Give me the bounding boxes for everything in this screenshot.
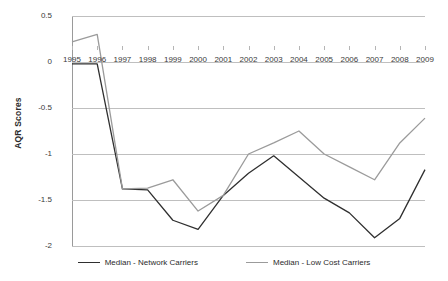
legend-label: Median - Network Carriers [105,258,198,267]
legend-swatch [78,262,100,263]
y-axis-tick-label: -2 [26,242,52,250]
series-line [72,64,425,238]
x-axis-tickmark [425,46,426,50]
x-axis-tickmark [324,46,325,50]
y-axis-tick-label: 0.5 [26,12,52,20]
x-axis-tick-labels: 1995199619971998199920002001200220032004… [72,55,425,69]
aqr-scores-line-chart: AQR Scores 0.50-0.5-1-1.5-2 199519961997… [0,0,448,281]
x-axis-tickmark [72,46,73,50]
x-axis-tickmark [198,46,199,50]
legend-item[interactable]: Median - Low Cost Carriers [246,258,370,267]
x-axis-tickmark [375,46,376,50]
x-axis-tickmark [173,46,174,50]
x-axis-tickmark [223,46,224,50]
x-axis-tickmark [122,46,123,50]
y-axis-tick-label: -1.5 [26,196,52,204]
legend-item[interactable]: Median - Network Carriers [78,258,198,267]
x-axis-tickmarks [72,46,425,52]
legend-label: Median - Low Cost Carriers [273,258,370,267]
x-axis-tickmark [148,46,149,50]
gridline [72,246,425,247]
chart-legend: Median - Network CarriersMedian - Low Co… [0,258,448,267]
y-axis-tick-label: -0.5 [26,104,52,112]
x-axis-tick-label: 2009 [410,55,440,64]
x-axis-tickmark [299,46,300,50]
y-axis-tick-labels: 0.50-0.5-1-1.5-2 [20,0,52,281]
x-axis-tickmark [97,46,98,50]
y-axis-tick-label: -1 [26,150,52,158]
legend-swatch [246,262,268,263]
x-axis-tickmark [349,46,350,50]
x-axis-tickmark [274,46,275,50]
y-axis-tick-label: 0 [26,58,52,66]
x-axis-tickmark [400,46,401,50]
x-axis-tickmark [249,46,250,50]
